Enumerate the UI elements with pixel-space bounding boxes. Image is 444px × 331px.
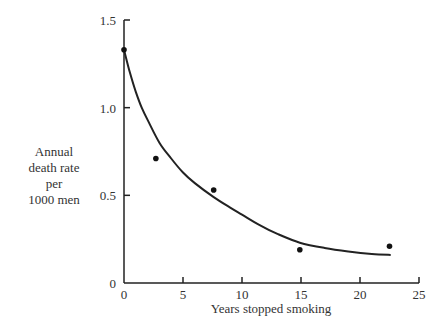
x-tick-label: 0 xyxy=(121,287,128,302)
data-points xyxy=(121,47,392,252)
x-ticks: 0510152025 xyxy=(121,277,426,302)
y-axis-title-line-1: Annual xyxy=(0,144,108,160)
y-axis-title-line-4: 1000 men xyxy=(0,192,108,208)
y-tick-label: 0 xyxy=(110,276,117,291)
x-tick-label: 5 xyxy=(180,287,187,302)
y-axis-title-line-3: per xyxy=(0,176,108,192)
y-axis-title: Annual death rate per 1000 men xyxy=(0,144,108,208)
data-point xyxy=(211,187,217,193)
y-tick-label: 1.5 xyxy=(100,13,116,28)
x-tick-label: 20 xyxy=(354,287,367,302)
y-tick-label: 1.0 xyxy=(100,101,116,116)
fitted-curve xyxy=(124,50,391,255)
axes xyxy=(124,20,419,283)
x-tick-label: 10 xyxy=(236,287,249,302)
x-axis-title: Years stopped smoking xyxy=(211,301,332,316)
data-point xyxy=(153,156,159,162)
x-tick-label: 25 xyxy=(413,287,426,302)
data-point xyxy=(297,247,303,253)
data-point xyxy=(121,47,127,53)
data-point xyxy=(387,243,393,249)
y-axis-title-line-2: death rate xyxy=(0,160,108,176)
x-tick-label: 15 xyxy=(295,287,308,302)
